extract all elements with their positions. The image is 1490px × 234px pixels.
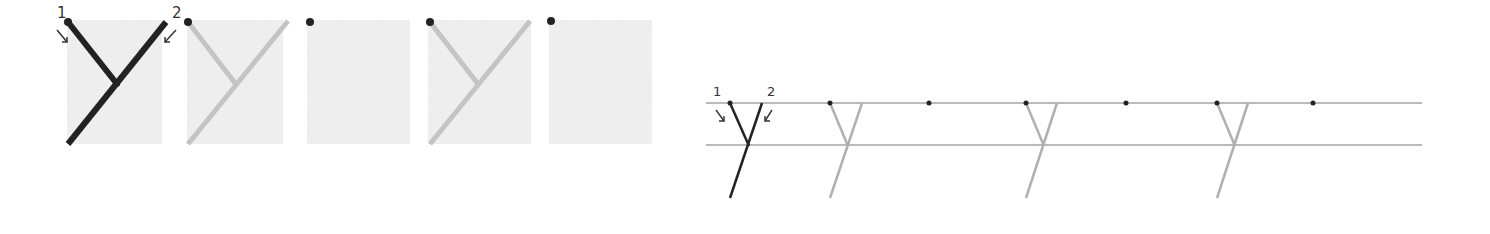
trace-letter-y-3 — [1215, 101, 1249, 199]
practice-box-2 — [184, 18, 288, 144]
practice-box-4 — [426, 18, 531, 144]
start-dot — [547, 17, 555, 25]
practice-box-3 — [306, 18, 410, 144]
stroke-label-1: 1 — [57, 6, 67, 21]
start-dot — [306, 18, 314, 26]
guide-lines — [706, 103, 1422, 145]
start-dot — [1024, 101, 1029, 106]
start-dot — [828, 101, 833, 106]
start-dot — [184, 18, 192, 26]
start-dot — [728, 101, 733, 106]
worksheet-svg — [0, 0, 1490, 234]
stroke-label-2: 2 — [172, 6, 182, 21]
trace-letter-y-2 — [1024, 101, 1058, 199]
start-dot-blank-3 — [1311, 101, 1316, 106]
start-dot-blank-2 — [1124, 101, 1129, 106]
stroke-2 — [730, 103, 762, 198]
start-dot-blank-1 — [927, 101, 932, 106]
practice-box-1 — [57, 18, 176, 144]
arrow-2-icon — [765, 110, 772, 121]
stroke-label-2: 2 — [767, 85, 775, 98]
stroke-label-1: 1 — [713, 85, 721, 98]
practice-box-5 — [547, 17, 652, 144]
handwriting-worksheet: 1 2 1 2 — [0, 0, 1490, 234]
arrow-1-icon — [716, 110, 724, 121]
trace-letter-y-1 — [828, 101, 863, 199]
demo-letter-y — [716, 101, 772, 199]
arrow-1-icon — [57, 30, 67, 42]
arrow-2-icon — [165, 30, 176, 42]
start-dot — [426, 18, 434, 26]
start-dot — [1215, 101, 1220, 106]
stroke-1 — [730, 103, 749, 146]
